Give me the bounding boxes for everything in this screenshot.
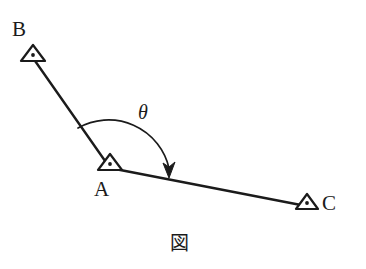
figure-drawing bbox=[0, 0, 366, 269]
figure-canvas: B A C θ 図 bbox=[0, 0, 366, 269]
station-marker-c bbox=[296, 194, 318, 209]
segment-ac bbox=[110, 168, 306, 206]
angle-arc bbox=[78, 120, 169, 168]
segment-ba bbox=[33, 58, 110, 168]
angle-label-theta: θ bbox=[138, 102, 148, 122]
station-marker-b bbox=[21, 45, 45, 61]
angle-arrowhead bbox=[163, 162, 175, 178]
point-label-b: B bbox=[12, 19, 26, 40]
figure-caption: 図 bbox=[170, 234, 189, 253]
point-label-c: C bbox=[322, 193, 336, 214]
point-label-a: A bbox=[94, 179, 109, 200]
